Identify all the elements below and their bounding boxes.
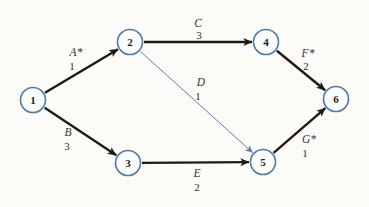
node-number-4: 4 [263,36,269,48]
node-5: 5 [251,150,276,175]
node-2: 2 [118,30,143,55]
node-number-5: 5 [260,156,266,168]
edge-B [45,108,117,156]
edge-activity-label-A: A* [69,46,83,58]
node-number-1: 1 [30,94,36,106]
edge-activity-label-B: B [64,126,71,138]
node-6: 6 [324,87,349,112]
edges-layer [45,42,326,163]
node-1: 1 [21,88,46,113]
node-4: 4 [254,30,279,55]
node-number-3: 3 [125,157,131,169]
node-number-2: 2 [127,36,133,48]
diagram-canvas: 123456 A*1B3C3D1E2F*2G*1 [0,0,369,207]
edge-duration-label-B: 3 [64,140,70,152]
edge-E [142,162,249,163]
edge-activity-label-E: E [192,167,200,179]
edge-activity-label-C: C [194,17,202,29]
edge-duration-label-E: 2 [194,181,200,193]
edge-duration-label-F: 2 [303,60,309,72]
activity-network-diagram: 123456 A*1B3C3D1E2F*2G*1 [0,0,369,207]
edge-duration-label-D: 1 [195,90,201,102]
edge-duration-label-A: 1 [69,60,75,72]
edge-activity-label-D: D [196,76,206,88]
edge-activity-label-G: G* [302,133,316,145]
edge-duration-label-C: 3 [196,29,202,41]
edge-D [140,51,252,152]
edge-activity-label-F: F* [301,47,315,59]
node-3: 3 [116,151,141,176]
edge-duration-label-G: 1 [302,147,308,159]
edge-G [274,108,326,153]
node-number-6: 6 [333,93,339,105]
